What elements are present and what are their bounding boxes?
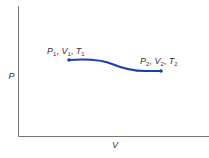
state-2-point [159, 69, 163, 73]
state-1-label: P1, V1, T1 [47, 46, 85, 57]
pv-diagram-svg: P V P1, V1, T1 P2, V2, T2 [0, 0, 209, 158]
x-axis-label: V [112, 140, 119, 150]
state-1-point [67, 58, 71, 62]
y-axis-label: P [9, 71, 15, 81]
pv-diagram: P V P1, V1, T1 P2, V2, T2 [0, 0, 209, 158]
state-2-label: P2, V2, T2 [140, 56, 178, 67]
